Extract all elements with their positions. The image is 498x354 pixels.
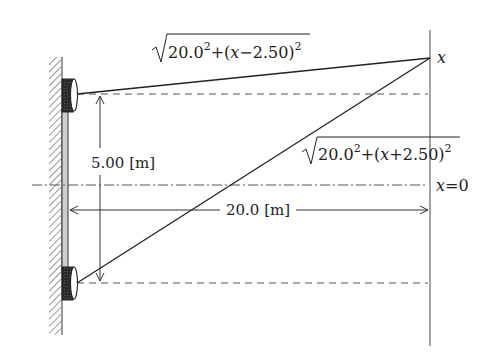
vertical-distance-label: 5.00 [m] — [91, 154, 155, 172]
mounting-rod — [62, 110, 68, 270]
origin-label: x=0 — [436, 176, 469, 195]
upper-path-line — [77, 58, 430, 94]
svg-text:20.02+(x−2.50)2: 20.02+(x−2.50)2 — [168, 40, 302, 62]
wall-hatch — [49, 57, 61, 335]
upper-speaker — [62, 79, 78, 112]
svg-text:20.02+(x+2.50)2: 20.02+(x+2.50)2 — [318, 142, 452, 164]
speaker-interference-diagram: 5.00 [m] 20.0 [m] 20.02+(x−2.50)2 20.02+… — [0, 0, 498, 354]
horizontal-distance-label: 20.0 [m] — [226, 201, 290, 219]
horizontal-dimension: 20.0 [m] — [70, 201, 428, 219]
lower-path-formula: 20.02+(x+2.50)2 — [302, 137, 460, 164]
wall — [49, 57, 62, 335]
point-label: x — [437, 48, 446, 67]
upper-path-formula: 20.02+(x−2.50)2 — [152, 34, 310, 62]
lower-speaker — [62, 267, 78, 300]
